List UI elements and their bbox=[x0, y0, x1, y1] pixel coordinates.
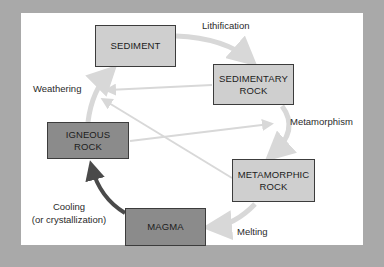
igneous-rock-box: IGNEOUS ROCK bbox=[47, 122, 129, 159]
sediment-box: SEDIMENT bbox=[95, 25, 176, 67]
magma-box: MAGMA bbox=[125, 208, 206, 246]
sedimentary-rock-label-1: SEDIMENTARY bbox=[219, 73, 288, 85]
weathering-arrow bbox=[88, 72, 110, 122]
igneous-metamorphism-arrow bbox=[130, 124, 270, 141]
magma-label: MAGMA bbox=[147, 221, 183, 233]
metamorphic-rock-box: METAMORPHIC ROCK bbox=[232, 159, 315, 202]
sedimentary-weathering-arrow bbox=[108, 85, 212, 90]
sedimentary-rock-box: SEDIMENTARY ROCK bbox=[213, 64, 294, 105]
igneous-rock-label-1: IGNEOUS bbox=[66, 129, 111, 141]
sediment-label: SEDIMENT bbox=[111, 40, 161, 52]
igneous-rock-label-2: ROCK bbox=[66, 141, 111, 153]
lithification-arrow bbox=[176, 36, 250, 60]
weathering-label: Weathering bbox=[33, 82, 81, 95]
melting-arrow bbox=[212, 204, 255, 227]
sedimentary-rock-label-2: ROCK bbox=[219, 85, 288, 97]
cooling-label-2: (or crystallization) bbox=[24, 213, 114, 226]
cooling-label-1: Cooling bbox=[24, 200, 114, 213]
cooling-label: Cooling (or crystallization) bbox=[24, 200, 114, 226]
metamorphism-arrow bbox=[272, 106, 289, 155]
metamorphic-rock-label-1: METAMORPHIC bbox=[238, 169, 310, 181]
lithification-label: Lithification bbox=[202, 19, 250, 32]
metamorphism-label: Metamorphism bbox=[290, 115, 353, 128]
metamorphic-rock-label-2: ROCK bbox=[238, 181, 310, 193]
melting-label: Melting bbox=[237, 225, 268, 238]
